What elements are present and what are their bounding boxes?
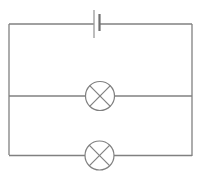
battery-icon (94, 10, 100, 38)
lamp-icon (86, 82, 115, 111)
circuit-diagram (0, 0, 208, 178)
lamp-icon (85, 141, 114, 170)
